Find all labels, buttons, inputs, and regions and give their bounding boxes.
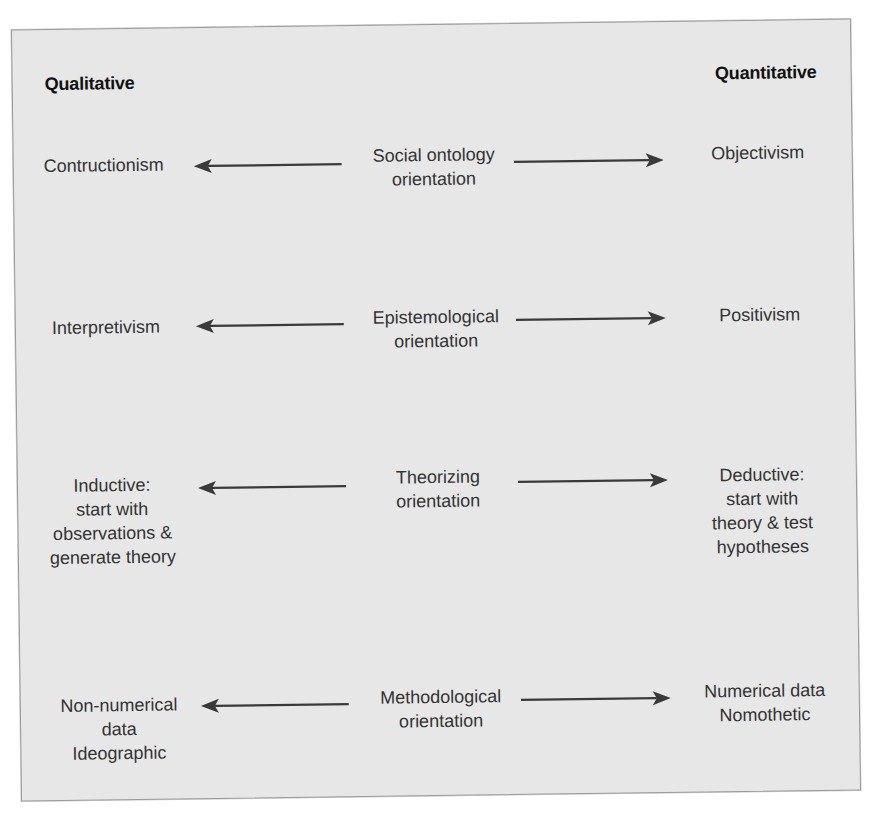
qualitative-value: Non-numerical data Ideographic [29,692,210,766]
row-methodological: Non-numerical data Ideographic Methodolo… [21,679,859,690]
arrow-left-icon [196,316,344,334]
dimension-label: Theorizing orientation [338,464,539,515]
quantitative-value: Positivism [670,302,850,328]
qualitative-value: Inductive: start with observations & gen… [22,472,203,570]
qualitative-value: Interpretivism [16,314,196,340]
dimension-label: Methodological orientation [341,684,542,735]
row-theorizing: Inductive: start with observations & gen… [18,460,856,471]
arrow-right-icon [516,310,666,328]
qualitative-heading: Qualitative [45,73,135,95]
qualitative-value: Contructionism [14,152,194,178]
dimension-label: Social ontology orientation [334,142,535,193]
arrow-right-icon [521,690,671,708]
quantitative-value: Numerical data Nomothetic [675,678,856,728]
arrow-right-icon [514,152,664,170]
row-social-ontology: Contructionism Social ontology orientati… [14,138,852,149]
diagram-panel: Qualitative Quantitative Contructionism … [11,19,861,802]
quantitative-value: Deductive: start with theory & test hypo… [672,462,853,560]
arrow-left-icon [201,696,349,714]
arrow-right-icon [518,472,668,490]
dimension-label: Epistemological orientation [336,304,537,355]
row-epistemological: Interpretivism Epistemological orientati… [16,300,854,311]
quantitative-heading: Quantitative [715,62,817,84]
arrow-left-icon [198,478,346,496]
quantitative-value: Objectivism [668,140,848,166]
arrow-left-icon [194,156,342,174]
